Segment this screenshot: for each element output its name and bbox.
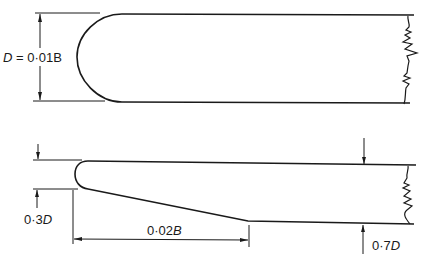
taper-length-label: 0·02B (147, 223, 182, 238)
arrow-up-icon (361, 225, 365, 232)
arrow-down-icon (362, 157, 366, 164)
break-line-icon (403, 16, 417, 104)
arrow-up-icon (35, 190, 39, 197)
bottom-section-outline (75, 161, 416, 224)
top-dimension-label: D = 0·01B (3, 50, 62, 65)
top-section-figure: D = 0·01B (3, 13, 417, 104)
arrow-up-icon (38, 14, 42, 22)
arrow-left-icon (74, 237, 82, 241)
diagram-canvas: D = 0·01B 0·3D (0, 0, 429, 264)
break-line-icon (403, 166, 412, 224)
bottom-section-figure: 0·3D 0·02B 0·7D (24, 138, 416, 254)
arrow-down-icon (36, 152, 40, 159)
arrow-down-icon (38, 92, 42, 100)
top-section-outline (77, 14, 414, 103)
thickness-label: 0·7D (372, 238, 400, 253)
arrow-right-icon (240, 238, 248, 242)
nose-dimension-label: 0·3D (24, 212, 52, 227)
taper-dimension-line (74, 239, 248, 240)
